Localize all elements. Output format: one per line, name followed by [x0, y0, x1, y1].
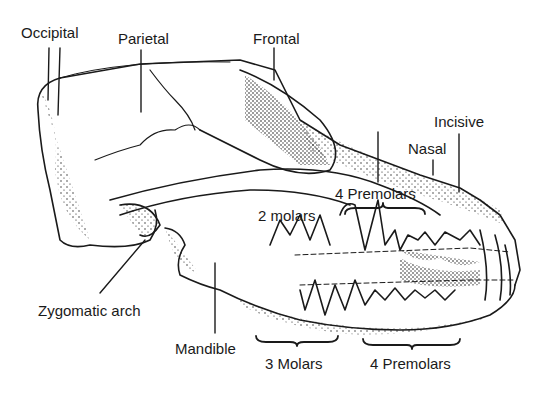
lower-premolars-brace	[363, 339, 460, 349]
label-parietal: Parietal	[118, 31, 169, 46]
label-upper-premolars: 4 Premolars	[335, 186, 416, 201]
cranium-outline	[60, 60, 520, 285]
label-incisive: Incisive	[434, 114, 484, 129]
skull-illustration	[0, 0, 549, 393]
label-upper-molars: 2 molars	[258, 208, 316, 223]
label-lower-premolars: 4 Premolars	[370, 356, 451, 371]
label-occipital: Occipital	[21, 25, 79, 40]
label-zygomatic-arch: Zygomatic arch	[38, 303, 141, 318]
label-frontal: Frontal	[253, 31, 300, 46]
label-mandible: Mandible	[175, 341, 236, 356]
label-nasal: Nasal	[408, 141, 446, 156]
lower-molars-brace	[256, 336, 338, 346]
label-lower-molars: 3 Molars	[265, 356, 323, 371]
